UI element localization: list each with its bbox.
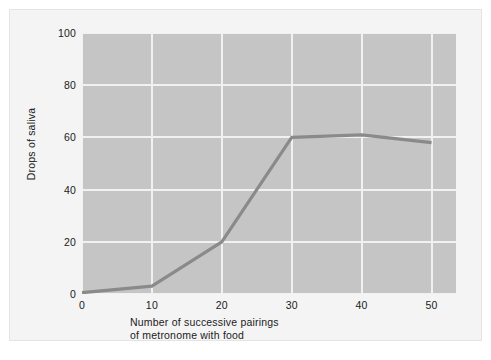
x-tick-label-30: 30 xyxy=(267,300,317,311)
x-tick-label-10: 10 xyxy=(127,300,177,311)
x-axis-title-line-2: of metronome with food xyxy=(130,329,390,342)
plot-area xyxy=(82,33,456,294)
y-axis-title: Drops of saliva xyxy=(25,79,37,209)
x-axis-title: Number of successive pairings of metrono… xyxy=(130,316,390,342)
x-tick-label-20: 20 xyxy=(197,300,247,311)
figure-panel: 020406080100 01020304050 Drops of saliva… xyxy=(9,9,482,341)
x-axis-title-line-1: Number of successive pairings xyxy=(130,316,390,329)
data-series-svg xyxy=(82,33,456,294)
x-tick-label-50: 50 xyxy=(407,300,457,311)
y-tick-label-0: 0 xyxy=(36,289,76,299)
y-tick-label-100: 100 xyxy=(36,28,76,38)
y-tick-label-20: 20 xyxy=(36,237,76,247)
x-axis-tick-labels: 01020304050 xyxy=(82,300,456,314)
x-tick-label-0: 0 xyxy=(57,300,107,311)
x-tick-label-40: 40 xyxy=(337,300,387,311)
y-tick-label-40: 40 xyxy=(36,185,76,195)
y-tick-label-80: 80 xyxy=(36,80,76,90)
y-tick-label-60: 60 xyxy=(36,132,76,142)
saliva-line-series xyxy=(82,135,432,293)
